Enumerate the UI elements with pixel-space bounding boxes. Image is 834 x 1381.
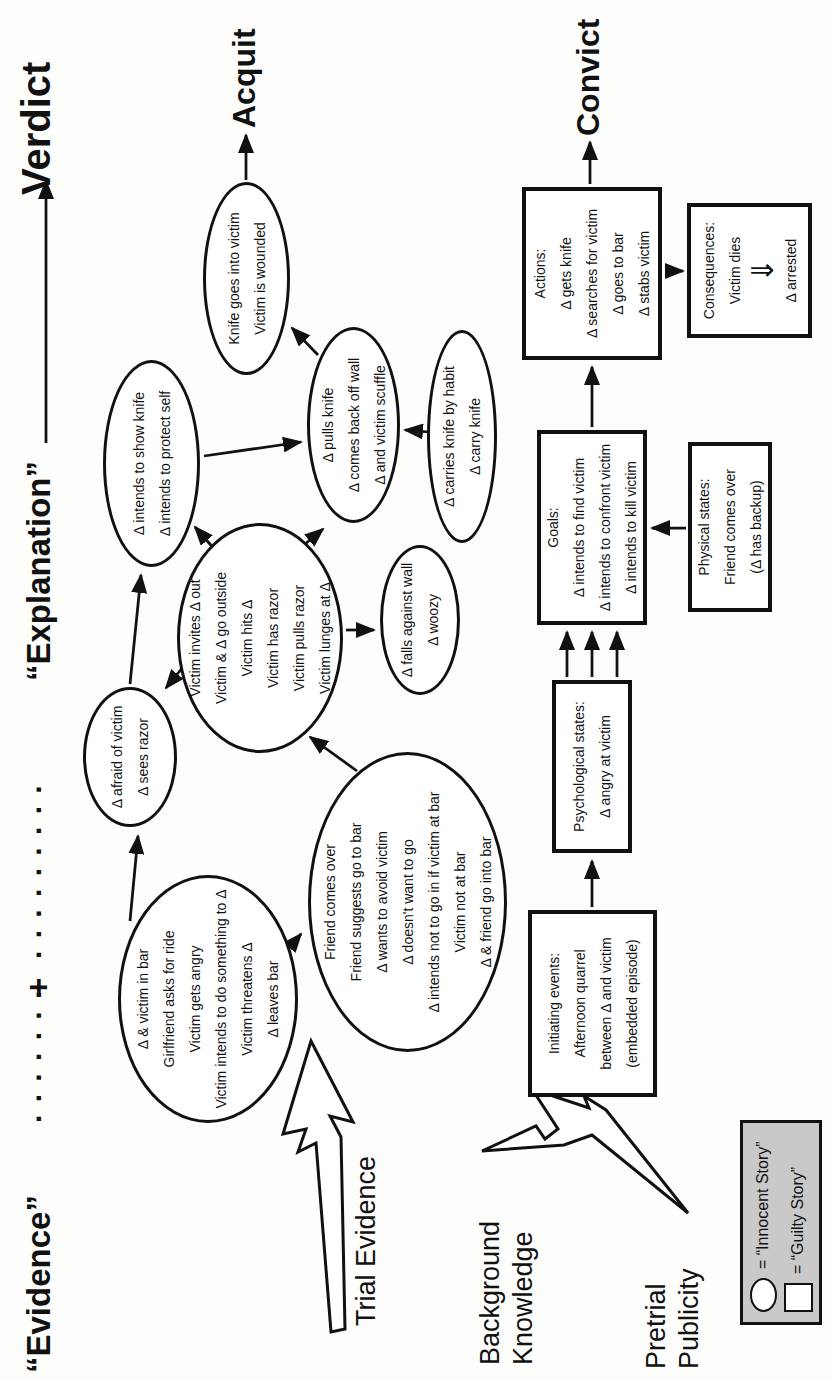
double-down-arrow-icon: ⇓ xyxy=(748,258,778,283)
node-show-knife-intent: Δ intends to show knife Δ intends to pro… xyxy=(103,360,200,567)
node-physical-states: Physical states: Friend comes over (Δ ha… xyxy=(688,442,772,612)
node-goals: Goals: Δ intends to find victim Δ intend… xyxy=(537,430,647,625)
plus-sign: + xyxy=(20,978,58,997)
node-pulls-knife: Δ pulls knife Δ comes back off wall Δ an… xyxy=(307,327,400,523)
node-afraid-of-victim: Δ afraid of victim Δ sees razor xyxy=(83,687,177,827)
node-consequences-after-text: Δ arrested xyxy=(778,239,804,303)
arrow-afraid-to-showknife xyxy=(130,575,141,684)
label-acquit: Acquit xyxy=(226,28,263,128)
arrow-friend-to-aggression xyxy=(310,737,357,771)
node-physical-states-text: Physical states: Friend comes over (Δ ha… xyxy=(691,469,769,585)
node-psychological-states: Psychological states: Δ angry at victim xyxy=(552,680,632,853)
label-verdict: Verdict xyxy=(14,62,59,195)
node-bar-episode-text: Δ & victim in bar Girlfriend asks for ri… xyxy=(130,889,286,1108)
label-trial-evidence: Trial Evidence xyxy=(350,1156,383,1326)
node-friend-episode: Friend comes over Friend suggests go to … xyxy=(308,752,507,1052)
node-pulls-knife-text: Δ pulls knife Δ comes back off wall Δ an… xyxy=(315,358,393,492)
figure-page: “Evidence” . . . . . . . + . . . . . . .… xyxy=(0,0,834,1381)
arrow-pullsknife-to-wound xyxy=(292,328,318,355)
label-convict: Convict xyxy=(570,19,607,136)
arrow-bar-to-friend xyxy=(290,934,301,947)
node-victim-aggression: Victim invites Δ out Victim & Δ go outsi… xyxy=(177,523,343,753)
dots-right: . . . . . . . . . xyxy=(14,783,48,959)
node-initiating-events: Initiating events: Afternoon quarrel bet… xyxy=(528,910,657,1097)
node-afraid-of-victim-text: Δ afraid of victim Δ sees razor xyxy=(104,706,156,809)
node-knife-into-victim: Knife goes into victim Victim is wounded xyxy=(203,182,290,375)
node-friend-episode-text: Friend comes over Friend suggests go to … xyxy=(317,791,499,1012)
node-show-knife-intent-text: Δ intends to show knife Δ intends to pro… xyxy=(126,391,178,537)
legend-row-guilty: = “Guilty Story” xyxy=(784,1123,813,1312)
arrow-showknife-to-pullsknife xyxy=(204,442,301,456)
node-consequences: Consequences: Victim dies ⇓ Δ arrested xyxy=(687,203,812,338)
rectangle-swatch-icon xyxy=(784,1283,813,1312)
node-falls-against-wall-text: Δ falls against wall Δ woozy xyxy=(394,563,446,677)
node-consequences-text: Consequences: Victim dies xyxy=(696,222,748,319)
node-falls-against-wall: Δ falls against wall Δ woozy xyxy=(380,545,460,695)
node-actions-text: Actions: Δ gets knife Δ searches for vic… xyxy=(527,209,657,338)
node-victim-aggression-text: Victim invites Δ out Victim & Δ go outsi… xyxy=(182,572,338,704)
dots-left: . . . . . . . xyxy=(14,989,48,1123)
node-actions: Actions: Δ gets knife Δ searches for vic… xyxy=(522,187,662,360)
legend-guilty-label: = “Guilty Story” xyxy=(789,1167,807,1274)
node-carries-knife-text: Δ carries knife by habit Δ carry knife xyxy=(436,366,488,507)
legend-row-innocent: = “Innocent Story” xyxy=(750,1123,777,1312)
ellipse-swatch-icon xyxy=(750,1278,777,1312)
legend-innocent-label: = “Innocent Story” xyxy=(754,1141,772,1269)
story-model-diagram: “Evidence” . . . . . . . + . . . . . . .… xyxy=(0,0,834,1381)
trial-evidence-arrow xyxy=(283,1041,353,1332)
label-pretrial-publicity: Pretrial Publicity xyxy=(640,1268,706,1369)
arrow-carries-to-pullsknife xyxy=(405,430,429,432)
legend-box: = “Innocent Story” = “Guilty Story” xyxy=(740,1120,822,1325)
knowledge-publicity-arrow xyxy=(482,1089,688,1213)
node-bar-episode: Δ & victim in bar Girlfriend asks for ri… xyxy=(118,875,298,1123)
node-knife-into-victim-text: Knife goes into victim Victim is wounded xyxy=(221,212,273,344)
label-background-knowledge: Background Knowledge xyxy=(474,1221,540,1365)
node-carries-knife: Δ carries knife by habit Δ carry knife xyxy=(427,330,497,543)
node-goals-text: Goals: Δ intends to find victim Δ intend… xyxy=(540,444,644,611)
node-psychological-states-text: Psychological states: Δ angry at victim xyxy=(566,701,618,832)
label-evidence: “Evidence” xyxy=(20,1195,58,1373)
node-initiating-events-text: Initiating events: Afternoon quarrel bet… xyxy=(541,937,645,1069)
label-explanation: “Explanation” xyxy=(20,461,58,681)
